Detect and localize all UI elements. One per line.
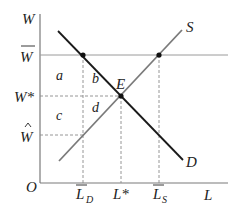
y-axis-label: W	[22, 11, 36, 27]
xtick-ls: L S	[152, 185, 167, 205]
ls-point	[156, 52, 161, 57]
region-c-label: c	[56, 108, 63, 123]
equilibrium-label: E	[115, 76, 125, 92]
ytick-what-label: W	[20, 129, 34, 145]
equilibrium-point	[118, 93, 123, 98]
supply-demand-diagram: W L O W W* W L D L* L S S D E a b c d	[0, 0, 241, 214]
supply-label: S	[186, 19, 194, 35]
ytick-wbar: W	[20, 46, 35, 65]
demand-label: D	[185, 154, 197, 170]
xtick-ls-sub: S	[162, 194, 167, 205]
xtick-ld-label: L	[75, 186, 84, 202]
xtick-ld-sub: D	[85, 194, 94, 205]
region-d-label: d	[92, 100, 100, 115]
xtick-lstar-label: L*	[112, 186, 129, 202]
x-axis-label: L	[203, 187, 212, 203]
origin-label: O	[26, 179, 37, 195]
hat-icon	[25, 123, 31, 127]
ld-point	[80, 52, 85, 57]
region-a-label: a	[56, 68, 63, 83]
xtick-ld: L D	[75, 185, 94, 205]
ytick-what: W	[20, 123, 34, 145]
ytick-wbar-label: W	[20, 49, 34, 65]
ytick-wstar-label: W*	[14, 89, 34, 105]
region-b-label: b	[92, 71, 99, 86]
xtick-ls-label: L	[152, 186, 161, 202]
